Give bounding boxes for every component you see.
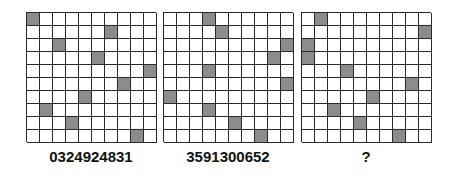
grid-cell: [393, 52, 406, 65]
grid-cell: [105, 65, 118, 78]
grid-cell: [406, 26, 419, 39]
grid-cell: [118, 26, 131, 39]
shaded-cell: [341, 65, 354, 78]
grid-cell: [328, 52, 341, 65]
grid-cell: [268, 117, 281, 130]
grid-cell: [40, 91, 53, 104]
grid-cell: [229, 91, 242, 104]
grid-cell: [281, 130, 294, 143]
grid-cell: [341, 39, 354, 52]
grid-cell: [393, 65, 406, 78]
grid-cell: [66, 104, 79, 117]
grid-cell: [315, 91, 328, 104]
grid-cell: [40, 78, 53, 91]
grid-cell: [66, 26, 79, 39]
grid-cell: [302, 104, 315, 117]
grid-cell: [92, 39, 105, 52]
shaded-cell: [144, 65, 157, 78]
grid-cell: [79, 104, 92, 117]
grid-cell: [92, 65, 105, 78]
grid-cell: [354, 91, 367, 104]
grid-cell: [419, 13, 432, 26]
grid-cell: [105, 39, 118, 52]
shaded-cell: [92, 52, 105, 65]
grid-cell: [203, 91, 216, 104]
grid-cell: [328, 117, 341, 130]
shaded-cell: [328, 104, 341, 117]
grid-cell: [406, 104, 419, 117]
grid-cell: [406, 117, 419, 130]
grid-cell: [281, 104, 294, 117]
grid-cell: [315, 65, 328, 78]
grid-cell: [380, 117, 393, 130]
grid-cell: [144, 130, 157, 143]
grid-cell: [118, 91, 131, 104]
grid-cell: [216, 104, 229, 117]
grid-cell: [229, 39, 242, 52]
grid-cell: [203, 78, 216, 91]
grid-cell: [27, 39, 40, 52]
grid-cell: [66, 39, 79, 52]
grid-cell: [255, 117, 268, 130]
shaded-cell: [281, 39, 294, 52]
grid-cell: [380, 91, 393, 104]
grid-cell: [27, 104, 40, 117]
grid-cell: [242, 39, 255, 52]
grid-cell: [53, 52, 66, 65]
grid-cell: [190, 39, 203, 52]
grid-cell: [255, 104, 268, 117]
grid-cell: [268, 104, 281, 117]
grid-cell: [105, 52, 118, 65]
shaded-cell: [302, 52, 315, 65]
grid-cell: [354, 104, 367, 117]
grid-cell: [164, 78, 177, 91]
grid-cell: [203, 130, 216, 143]
grid-cell: [268, 13, 281, 26]
grid-cell: [92, 130, 105, 143]
grid-cell: [315, 104, 328, 117]
grid-cell: [216, 78, 229, 91]
grid-cell: [302, 65, 315, 78]
grid-cell: [66, 78, 79, 91]
grid-cell: [255, 52, 268, 65]
grid-cell: [354, 13, 367, 26]
grid-cell: [281, 52, 294, 65]
grid-cell: [177, 78, 190, 91]
shaded-cell: [118, 78, 131, 91]
shaded-cell: [203, 13, 216, 26]
grid-cell: [380, 52, 393, 65]
grid-cell: [216, 39, 229, 52]
grid-cell: [328, 91, 341, 104]
grid-cell: [190, 52, 203, 65]
grid-cell: [53, 65, 66, 78]
grid-cell: [105, 91, 118, 104]
grid-cell: [281, 65, 294, 78]
grid-cell: [118, 39, 131, 52]
grid-cell: [328, 26, 341, 39]
grid-cell: [177, 65, 190, 78]
grid-cell: [380, 104, 393, 117]
shaded-cell: [203, 65, 216, 78]
grid-cell: [190, 78, 203, 91]
grid-cell: [315, 78, 328, 91]
grid-cell: [242, 13, 255, 26]
shaded-cell: [131, 130, 144, 143]
grid-cell: [419, 130, 432, 143]
grid-cell: [164, 26, 177, 39]
grid-cell: [393, 91, 406, 104]
grid-cell: [315, 39, 328, 52]
grid-cell: [40, 130, 53, 143]
grid-cell: [354, 52, 367, 65]
grid-cell: [315, 26, 328, 39]
shaded-cell: [66, 117, 79, 130]
grid-cell: [393, 117, 406, 130]
grid-cell: [341, 91, 354, 104]
grid-3: [301, 12, 431, 142]
question-label: ?: [301, 148, 431, 165]
grid-cell: [177, 52, 190, 65]
grid-cell: [242, 117, 255, 130]
grid-cell: [190, 117, 203, 130]
grid-cell: [144, 91, 157, 104]
grid-cell: [144, 78, 157, 91]
grid-cell: [419, 104, 432, 117]
